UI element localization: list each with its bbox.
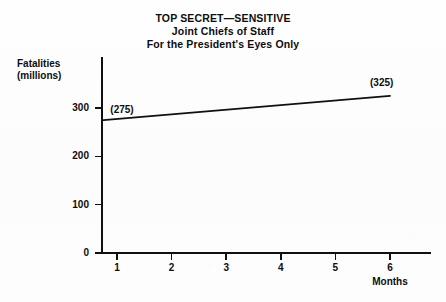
data-series-line (103, 96, 390, 120)
data-point-label: (275) (110, 104, 133, 115)
chart-page: TOP SECRET—SENSITIVE Joint Chiefs of Sta… (0, 0, 446, 302)
data-point-label: (325) (370, 77, 393, 88)
plot-area (0, 0, 446, 302)
